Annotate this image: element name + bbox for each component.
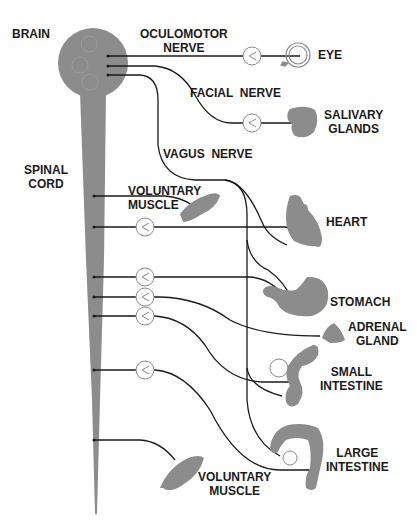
ganglion-large-intestine [136, 361, 154, 379]
label-stomach: STOMACH [330, 295, 390, 309]
heart-organ [286, 195, 322, 247]
vagus-descending [225, 180, 280, 456]
label-salivary-glands: SALIVARY GLANDS [324, 108, 383, 136]
label-brain: BRAIN [12, 27, 50, 41]
salivary-glands-organ [287, 107, 317, 138]
label-eye: EYE [318, 48, 342, 62]
ganglia [136, 47, 304, 465]
nerve-lines [94, 56, 320, 470]
spinal-cord-shape [80, 92, 106, 515]
vagus-to-heart [225, 180, 287, 245]
label-oculomotor-nerve: OCULOMOTOR NERVE [140, 27, 228, 55]
sympathetic-to-small-intestine [94, 316, 290, 382]
brain-shape [58, 28, 128, 98]
small-intestine-organ [286, 345, 319, 407]
label-small-intestine: SMALL INTESTINE [320, 365, 383, 393]
eye-organ [281, 43, 310, 67]
label-spinal-cord: SPINAL CORD [24, 163, 68, 191]
sympathetic-to-stomach [94, 277, 290, 305]
ganglion-small-intestine-wall [270, 359, 288, 377]
central-nervous-system [58, 28, 128, 515]
ganglion-heart [136, 218, 154, 236]
label-voluntary-muscle-upper: VOLUNTARY MUSCLE [128, 184, 201, 212]
label-large-intestine: LARGE INTESTINE [326, 446, 389, 474]
stomach-organ [263, 277, 328, 316]
motor-nerve-lower-muscle [94, 440, 175, 460]
label-heart: HEART [326, 215, 367, 229]
label-vagus-nerve: VAGUS NERVE [163, 147, 253, 161]
adrenal-gland-organ [322, 323, 345, 343]
nervous-system-diagram: BRAIN SPINAL CORD OCULOMOTOR NERVE FACIA… [0, 0, 417, 529]
ganglion-small-intestine [136, 307, 154, 325]
ganglion-eye [243, 47, 261, 65]
label-voluntary-muscle-lower: VOLUNTARY MUSCLE [198, 470, 271, 498]
organs [160, 43, 345, 490]
ganglion-stomach [136, 268, 154, 286]
ganglion-salivary [243, 114, 261, 132]
ganglion-adrenal [136, 288, 154, 306]
ganglion-large-intestine-wall [283, 451, 297, 465]
label-adrenal-gland: ADRENAL GLAND [348, 320, 407, 348]
label-facial-nerve: FACIAL NERVE [190, 86, 281, 100]
